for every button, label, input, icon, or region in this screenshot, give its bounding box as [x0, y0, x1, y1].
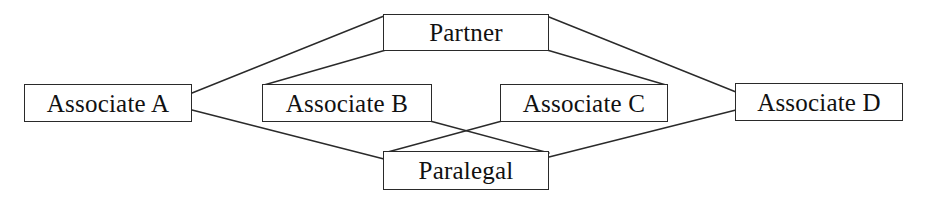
node-label-associate-a: Associate A	[47, 91, 169, 116]
node-associate-d[interactable]: Associate D	[735, 83, 903, 121]
node-label-paralegal: Paralegal	[419, 158, 514, 183]
node-label-associate-d: Associate D	[757, 90, 881, 115]
edge-associate_c-to-paralegal	[384, 121, 502, 153]
edge-associate_a-to-partner	[192, 16, 384, 93]
edge-partner-to-associate_d	[549, 17, 736, 92]
edge-partner-to-associate_b	[264, 50, 386, 85]
node-label-partner: Partner	[429, 20, 503, 45]
node-label-associate-c: Associate C	[523, 91, 645, 116]
node-partner[interactable]: Partner	[383, 14, 549, 51]
node-associate-b[interactable]: Associate B	[262, 84, 432, 122]
diagram-canvas: Associate A Partner Associate B Associat…	[0, 0, 928, 211]
node-associate-a[interactable]: Associate A	[24, 84, 192, 122]
edge-associate_b-to-paralegal	[430, 121, 549, 153]
node-associate-c[interactable]: Associate C	[500, 84, 668, 122]
edge-partner-to-associate_c	[547, 50, 666, 85]
node-paralegal[interactable]: Paralegal	[383, 151, 549, 190]
node-label-associate-b: Associate B	[286, 91, 408, 116]
